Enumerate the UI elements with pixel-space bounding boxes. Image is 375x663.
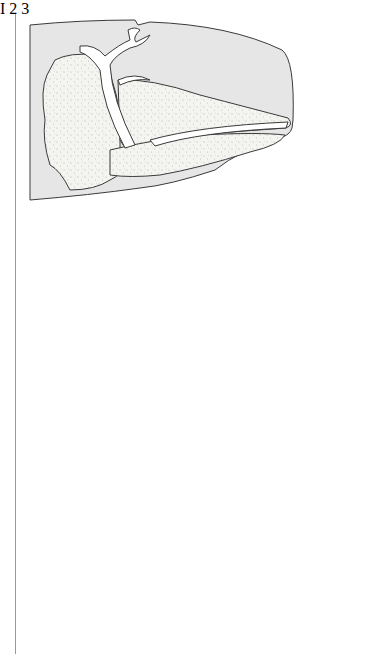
whale-head-diagrams [0,0,375,663]
panel-1-diagram [30,20,293,200]
